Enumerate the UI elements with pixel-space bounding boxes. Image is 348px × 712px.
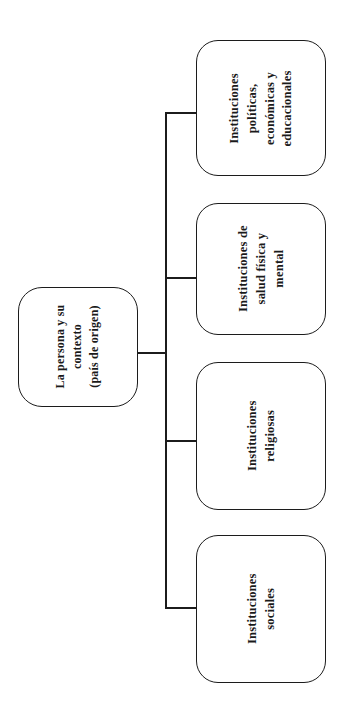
connector-stub-2 — [165, 440, 197, 442]
connector-stub-0 — [165, 112, 197, 114]
node-child-2-label: Instituciones religiosas — [243, 401, 279, 472]
node-root: La persona y su contexto (país de origen… — [18, 287, 138, 407]
node-child-3-label: Instituciones sociales — [243, 574, 279, 645]
node-instituciones-politicas-economicas-educacionales: Instituciones políticas, económicas y ed… — [196, 40, 326, 176]
node-child-1-label: Instituciones de salud física y mental — [234, 226, 287, 313]
connector-trunk-line — [165, 112, 167, 609]
connector-stub-3 — [165, 607, 197, 609]
diagram-canvas: La persona y su contexto (país de origen… — [0, 0, 348, 712]
node-child-0-label: Instituciones políticas, económicas y ed… — [226, 70, 297, 146]
node-root-label: La persona y su contexto (país de origen… — [52, 305, 103, 389]
connector-root-link — [138, 352, 166, 354]
connector-stub-1 — [165, 277, 197, 279]
node-instituciones-salud-fisica-mental: Instituciones de salud física y mental — [196, 203, 326, 335]
node-instituciones-religiosas: Instituciones religiosas — [196, 362, 326, 510]
node-instituciones-sociales: Instituciones sociales — [196, 535, 326, 683]
